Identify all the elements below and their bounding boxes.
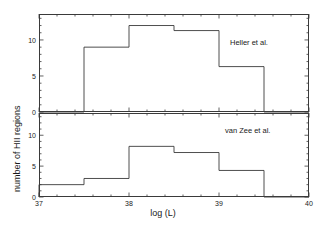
x-tick-label: 39 (215, 200, 223, 207)
x-tick-label: 37 (35, 200, 43, 207)
y-tick-label: 5 (23, 163, 36, 170)
y-tick-label: 0 (23, 194, 36, 201)
bottom-panel: van Zee et al. (39, 113, 309, 197)
series-label-vanzee: van Zee et al. (225, 126, 270, 135)
y-tick-label: 5 (23, 72, 36, 79)
x-tick-label: 40 (305, 200, 313, 207)
histogram-outline (39, 146, 309, 197)
histogram-figure: Heller et al. 0510 van Zee et al. 0510 3… (0, 0, 326, 227)
top-panel: Heller et al. (39, 14, 309, 112)
y-tick-label: 10 (23, 132, 36, 139)
x-tick-label: 38 (125, 200, 133, 207)
top-panel-histogram (39, 14, 309, 112)
y-tick-label: 0 (23, 109, 36, 116)
series-label-heller: Heller et al. (230, 38, 268, 47)
y-tick-label: 10 (23, 36, 36, 43)
y-axis-title: number of HII regions (12, 105, 22, 192)
x-axis-title: log (L) (0, 208, 326, 218)
histogram-outline (39, 26, 309, 112)
